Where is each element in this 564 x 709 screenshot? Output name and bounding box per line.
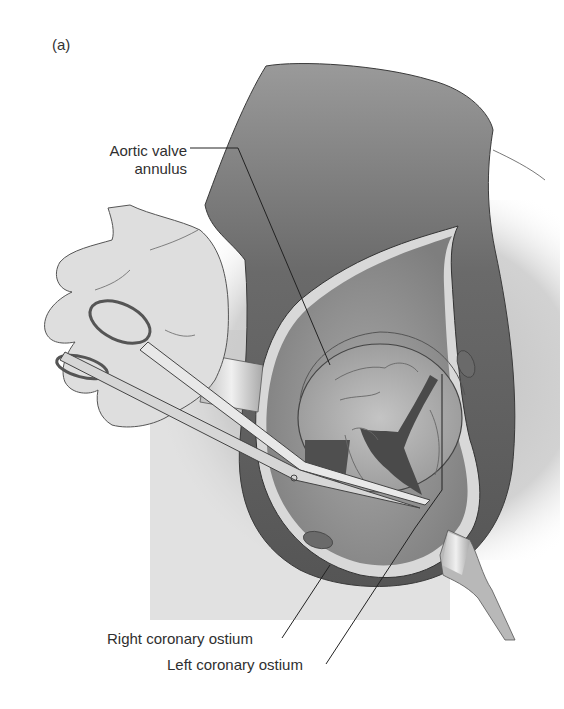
label-aortic-valve-annulus-line2: annulus <box>92 160 187 177</box>
illustration-canvas <box>0 0 564 709</box>
label-left-coronary-ostium: Left coronary ostium <box>167 656 303 673</box>
aortic-valve-surgical-illustration: (a) Aortic valve annulus Right coronary … <box>0 0 564 709</box>
label-right-coronary-ostium: Right coronary ostium <box>107 630 253 647</box>
label-aortic-valve-annulus-line1: Aortic valve <box>92 142 187 159</box>
panel-label: (a) <box>52 36 70 53</box>
